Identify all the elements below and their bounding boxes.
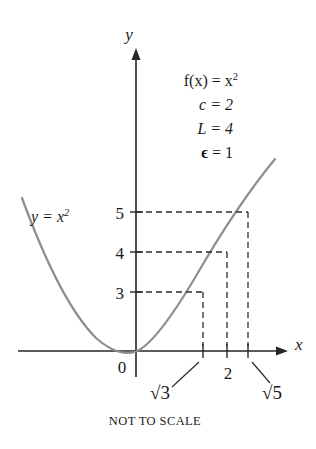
parabola-curve xyxy=(22,159,275,353)
limit-definition-diagram: y x 0 y = x2 f(x) = x2 c = 2 L = 4 ϵ = 1… xyxy=(0,0,316,449)
curve-label-base: y = x xyxy=(29,208,64,226)
annotation-c: c = 2 xyxy=(199,96,233,113)
y-tick-label-3: 3 xyxy=(116,284,125,303)
curve-label: y = x2 xyxy=(29,207,70,226)
origin-label: 0 xyxy=(118,358,127,377)
epsilon-rest: = 1 xyxy=(208,144,233,161)
x-tick-label-sqrt3: √3 xyxy=(150,382,170,403)
x-axis-label: x xyxy=(294,335,303,354)
y-axis-arrowhead xyxy=(132,48,141,60)
leader-line-sqrt3 xyxy=(172,362,199,387)
annotation-L: L = 4 xyxy=(197,120,233,137)
y-tick-label-5: 5 xyxy=(116,204,125,223)
x-tick-label-sqrt5: √5 xyxy=(262,382,282,403)
x-axis-arrowhead xyxy=(276,347,288,356)
figure-caption: NOT TO SCALE xyxy=(109,414,201,428)
annotation-epsilon: ϵ = 1 xyxy=(201,144,233,161)
x-tick-label-2: 2 xyxy=(224,364,233,383)
y-axis-label: y xyxy=(123,25,133,44)
y-tick-label-4: 4 xyxy=(116,244,125,263)
leader-line-sqrt5 xyxy=(252,362,270,383)
curve-label-exponent: 2 xyxy=(64,207,70,218)
annotation-function-exponent: 2 xyxy=(233,71,238,82)
annotation-function-base: f(x) = x xyxy=(184,72,233,90)
annotation-function: f(x) = x2 xyxy=(184,71,238,90)
